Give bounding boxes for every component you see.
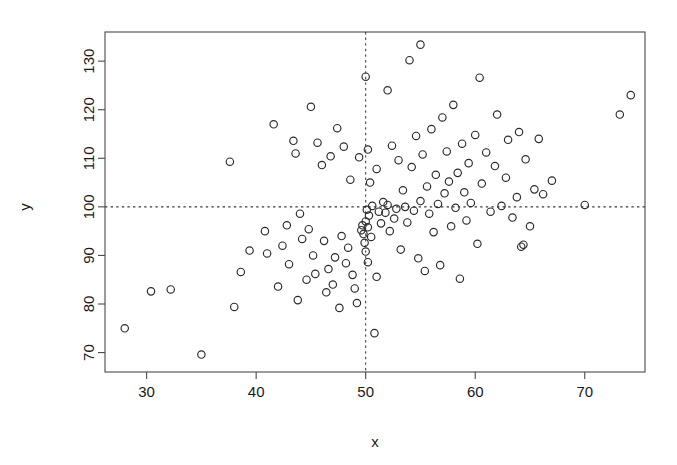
scatter-point: [325, 265, 332, 272]
x-tick-label: 70: [576, 383, 593, 400]
scatter-point: [426, 210, 433, 217]
scatter-point: [388, 142, 395, 149]
scatter-point: [627, 91, 634, 98]
scatter-point: [491, 162, 498, 169]
scatter-point: [303, 276, 310, 283]
scatter-point: [327, 153, 334, 160]
scatter-point: [399, 187, 406, 194]
scatter-point: [323, 289, 330, 296]
scatter-point: [539, 191, 546, 198]
scatter-point: [509, 214, 516, 221]
scatter-point: [353, 299, 360, 306]
scatter-point: [307, 103, 314, 110]
scatter-point: [198, 351, 205, 358]
scatter-point: [417, 197, 424, 204]
scatter-point: [362, 73, 369, 80]
scatter-point: [520, 241, 527, 248]
scatter-point: [535, 135, 542, 142]
scatter-point: [487, 208, 494, 215]
scatter-point: [410, 207, 417, 214]
scatter-point: [386, 227, 393, 234]
y-tick-label: 130: [80, 49, 97, 74]
y-tick-label: 120: [80, 97, 97, 122]
scatter-point: [384, 87, 391, 94]
scatter-point: [581, 201, 588, 208]
scatter-point: [526, 223, 533, 230]
scatter-point: [305, 226, 312, 233]
scatter-point: [309, 252, 316, 259]
scatter-point: [522, 156, 529, 163]
scatter-point: [476, 74, 483, 81]
scatter-point: [371, 329, 378, 336]
scatter-point: [349, 271, 356, 278]
scatter-point: [270, 121, 277, 128]
scatter-point: [504, 136, 511, 143]
y-tick-label: 100: [80, 194, 97, 219]
plot-frame: [105, 32, 645, 372]
scatter-point: [421, 267, 428, 274]
scatter-point: [419, 151, 426, 158]
scatter-point: [478, 180, 485, 187]
scatter-point: [334, 124, 341, 131]
scatter-point: [366, 179, 373, 186]
scatter-point: [432, 171, 439, 178]
data-points: [121, 41, 634, 358]
scatter-point: [531, 186, 538, 193]
y-tick-label: 80: [80, 296, 97, 313]
scatter-point: [312, 270, 319, 277]
scatter-point: [344, 244, 351, 251]
scatter-point: [336, 304, 343, 311]
scatter-point: [364, 146, 371, 153]
scatter-point: [474, 240, 481, 247]
scatter-point: [355, 154, 362, 161]
scatter-point: [351, 285, 358, 292]
scatter-point: [408, 163, 415, 170]
y-tick-label: 90: [80, 247, 97, 264]
y-tick-label: 110: [80, 146, 97, 170]
scatter-point: [263, 250, 270, 257]
scatter-point: [373, 165, 380, 172]
scatter-point: [498, 202, 505, 209]
scatter-point: [434, 200, 441, 207]
scatter-point: [377, 220, 384, 227]
scatter-point: [283, 222, 290, 229]
scatter-point: [296, 210, 303, 217]
scatter-point: [320, 237, 327, 244]
scatter-point: [465, 159, 472, 166]
scatter-point: [121, 325, 128, 332]
scatter-point: [342, 260, 349, 267]
axis-tick-labels: 3040506070708090100110120130: [80, 49, 593, 400]
scatter-point: [472, 131, 479, 138]
scatter-point: [548, 177, 555, 184]
x-tick-label: 60: [467, 383, 484, 400]
scatter-point: [502, 174, 509, 181]
scatter-point: [318, 161, 325, 168]
scatter-point: [390, 215, 397, 222]
scatter-point: [404, 219, 411, 226]
scatter-point: [298, 235, 305, 242]
scatter-point: [452, 204, 459, 211]
scatter-point: [430, 228, 437, 235]
scatter-point: [395, 157, 402, 164]
scatter-point: [361, 239, 368, 246]
scatter-point: [467, 199, 474, 206]
scatter-point: [445, 178, 452, 185]
scatter-point: [314, 139, 321, 146]
scatter-point: [367, 233, 374, 240]
scatter-point: [292, 150, 299, 157]
scatter-point: [616, 111, 623, 118]
scatter-point: [458, 140, 465, 147]
scatter-point: [340, 143, 347, 150]
scatter-point: [428, 125, 435, 132]
scatter-point: [329, 281, 336, 288]
plot-canvas: 3040506070708090100110120130 x y: [0, 0, 677, 465]
scatter-point: [406, 56, 413, 63]
scatter-point: [441, 190, 448, 197]
scatter-point: [331, 254, 338, 261]
scatter-point: [439, 114, 446, 121]
scatter-point: [493, 111, 500, 118]
scatter-point: [147, 288, 154, 295]
scatter-point: [167, 286, 174, 293]
scatter-point: [415, 255, 422, 262]
scatter-point: [226, 158, 233, 165]
